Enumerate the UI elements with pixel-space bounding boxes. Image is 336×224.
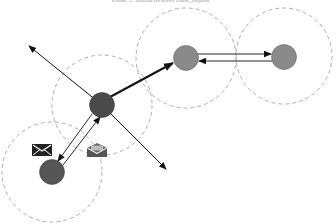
closed-envelope-icon xyxy=(32,144,52,156)
transmission-ranges xyxy=(2,8,332,222)
broadcast-arrow-upper-left xyxy=(29,46,102,105)
open-envelope-icon xyxy=(87,143,107,157)
arrow-bottom-to-center xyxy=(63,117,100,165)
arrow-center-to-bottom xyxy=(58,114,92,161)
center-node xyxy=(90,93,115,118)
thick-arrow-center-to-upper xyxy=(110,63,173,97)
edges xyxy=(29,46,272,169)
upper-node xyxy=(174,46,199,71)
broadcast-arrow-lower-right xyxy=(102,105,166,169)
bottom-left-node xyxy=(40,160,65,185)
network-diagram xyxy=(0,0,336,224)
right-node xyxy=(272,45,297,70)
